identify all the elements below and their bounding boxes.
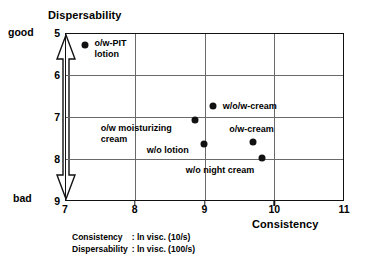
y-axis-anchor-good: good: [8, 26, 34, 38]
data-point-label: o/w moisturizing cream: [101, 123, 172, 145]
footnote-key: Consistency: [72, 231, 132, 243]
data-point: [81, 41, 88, 48]
y-tick-label: 8: [46, 153, 60, 165]
data-point: [250, 139, 257, 146]
data-point-label: w/o night cream: [186, 165, 255, 176]
y-tick-label: 9: [46, 195, 60, 207]
data-point-label: o/w-PIT lotion: [95, 38, 127, 60]
y-tick-label: 7: [46, 111, 60, 123]
data-point: [200, 141, 207, 148]
gridline-vertical: [135, 34, 136, 200]
y-tick-label: 5: [46, 27, 60, 39]
footnote-block: Consistency: ln visc. (10/s)Dispersabili…: [72, 231, 195, 256]
footnote-value: : ln visc. (10/s): [132, 231, 195, 243]
gridline-vertical: [274, 34, 275, 200]
footnote-row: Dispersability: ln visc. (100/s): [72, 243, 195, 255]
footnote-row: Consistency: ln visc. (10/s): [72, 231, 195, 243]
y-axis-anchor-bad: bad: [13, 192, 32, 204]
data-point-label: o/w-cream: [229, 124, 274, 135]
data-point: [258, 155, 265, 162]
data-point: [209, 102, 216, 109]
footnote-value: : ln visc. (100/s): [132, 243, 195, 255]
data-point-label: w/o lotion: [147, 145, 189, 156]
chart-canvas: Dispersability good bad 7891011 56789 o/…: [0, 0, 370, 271]
x-tick-mark: [134, 201, 135, 206]
x-tick-mark: [274, 201, 275, 206]
x-tick-label: 7: [62, 203, 68, 215]
data-point: [191, 116, 198, 123]
data-point-label: w/o/w-cream: [223, 101, 277, 112]
x-tick-mark: [204, 201, 205, 206]
footnote-table: Consistency: ln visc. (10/s)Dispersabili…: [72, 231, 195, 256]
y-tick-label: 6: [46, 69, 60, 81]
y-axis-title: Dispersability: [48, 9, 122, 22]
x-axis-title: Consistency: [252, 218, 319, 231]
x-tick-label: 11: [338, 203, 349, 215]
footnote-key: Dispersability: [72, 243, 132, 255]
